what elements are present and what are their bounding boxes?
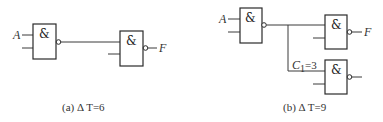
inversion-bubble-icon <box>347 30 352 35</box>
and-symbol: & <box>331 63 342 77</box>
input-label-a: A <box>218 12 227 26</box>
output-label-f: F <box>363 25 372 39</box>
load-label-value: =3 <box>305 59 317 71</box>
and-symbol: & <box>39 27 50 41</box>
inversion-bubble-icon <box>143 46 148 51</box>
inversion-bubble-icon <box>262 23 267 28</box>
output-label-f: F <box>158 41 167 55</box>
inversion-bubble-icon <box>347 75 352 80</box>
diagram-a: A & & F (a) Δ T=6 <box>12 24 167 114</box>
caption-b: (b) Δ T=9 <box>283 101 327 114</box>
and-symbol: & <box>126 34 137 48</box>
and-symbol: & <box>245 11 256 25</box>
inversion-bubble-icon <box>56 40 61 45</box>
caption-a: (a) Δ T=6 <box>62 101 105 114</box>
and-symbol: & <box>331 18 342 32</box>
diagram-b: A & & F C 1 =3 & (b) Δ T=9 <box>218 8 372 114</box>
logic-diagram: A & & F (a) Δ T=6 A & <box>0 0 383 122</box>
input-label-a: A <box>12 28 21 42</box>
